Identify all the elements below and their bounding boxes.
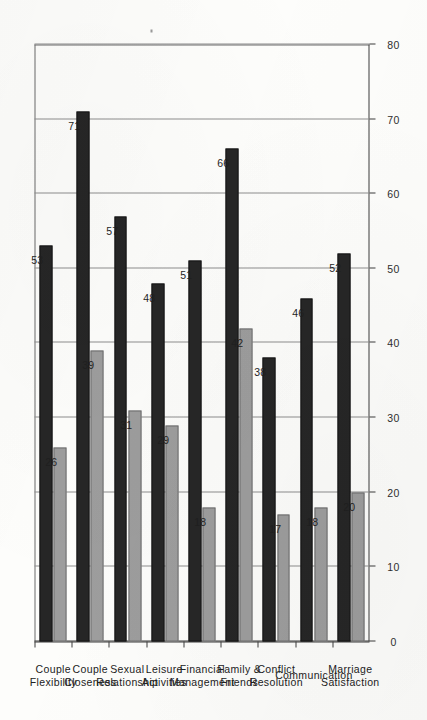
x-tick-70 xyxy=(369,118,375,119)
bar-chart: 01020304050607080 5220461838176642511848… xyxy=(0,0,427,720)
bar-value-label: 18 xyxy=(184,515,206,527)
x-tick-50 xyxy=(369,267,375,268)
bar-value-label: 18 xyxy=(296,515,318,527)
bar-gray xyxy=(128,410,141,641)
bar-dark xyxy=(39,246,52,642)
x-tick-80 xyxy=(369,43,375,44)
x-tick-label-60: 60 xyxy=(379,187,407,199)
x-tick-label-80: 80 xyxy=(379,38,407,50)
bar-value-label: 39 xyxy=(72,358,94,370)
chart-page: 01020304050607080 5220461838176642511848… xyxy=(0,0,427,720)
category-tick xyxy=(332,641,333,647)
x-tick-label-40: 40 xyxy=(379,337,407,349)
bar-value-label: 17 xyxy=(259,522,281,534)
category-band: 4829 xyxy=(146,44,183,641)
x-tick-label-70: 70 xyxy=(379,113,407,125)
category-tick xyxy=(183,641,184,647)
bar-value-label: 31 xyxy=(110,418,132,430)
bar-gray xyxy=(53,447,66,641)
category-band: 6642 xyxy=(220,44,257,641)
category-band: 5118 xyxy=(183,44,220,641)
x-tick-label-10: 10 xyxy=(379,560,407,572)
bar-dark xyxy=(188,260,201,641)
bar-dark xyxy=(76,111,89,641)
bar-value-label: 26 xyxy=(35,455,57,467)
bar-dark xyxy=(225,148,238,641)
x-tick-30 xyxy=(369,416,375,417)
category-band: 5731 xyxy=(108,44,145,641)
x-tick-60 xyxy=(369,192,375,193)
category-tick xyxy=(220,641,221,647)
category-label-line: Couple xyxy=(35,662,70,674)
scan-speck xyxy=(150,29,152,32)
bar-value-label: 29 xyxy=(147,433,169,445)
x-tick-0 xyxy=(369,640,375,641)
category-band: 5326 xyxy=(34,44,71,641)
category-tick xyxy=(257,641,258,647)
bar-dark xyxy=(300,298,313,641)
rotated-chart-stage: 01020304050607080 5220461838176642511848… xyxy=(0,0,427,720)
x-tick-10 xyxy=(369,565,375,566)
bar-value-label: 20 xyxy=(333,500,355,512)
x-tick-label-50: 50 xyxy=(379,262,407,274)
category-tick xyxy=(34,641,35,647)
bar-gray xyxy=(90,350,103,641)
plot-area: 01020304050607080 5220461838176642511848… xyxy=(34,44,369,642)
x-tick-40 xyxy=(369,342,375,343)
bar-value-label: 53 xyxy=(21,254,43,266)
x-tick-label-30: 30 xyxy=(379,411,407,423)
category-tick xyxy=(108,641,109,647)
bar-dark xyxy=(151,283,164,641)
bar-dark xyxy=(262,357,275,641)
category-tick xyxy=(146,641,147,647)
x-tick-20 xyxy=(369,491,375,492)
bar-gray xyxy=(239,328,252,641)
category-band: 5220 xyxy=(332,44,369,641)
category-label-line: Flexibility xyxy=(29,675,76,687)
category-label: CoupleFlexibility xyxy=(4,662,100,688)
category-tick xyxy=(71,641,72,647)
bar-dark xyxy=(337,253,350,641)
bar-value-label: 42 xyxy=(221,336,243,348)
bar-gray xyxy=(351,492,364,641)
bar-gray xyxy=(165,425,178,641)
x-tick-label-20: 20 xyxy=(379,486,407,498)
category-band: 4618 xyxy=(295,44,332,641)
category-band: 3817 xyxy=(257,44,294,641)
x-tick-label-0: 0 xyxy=(379,635,407,647)
category-tick xyxy=(295,641,296,647)
category-band: 7139 xyxy=(71,44,108,641)
